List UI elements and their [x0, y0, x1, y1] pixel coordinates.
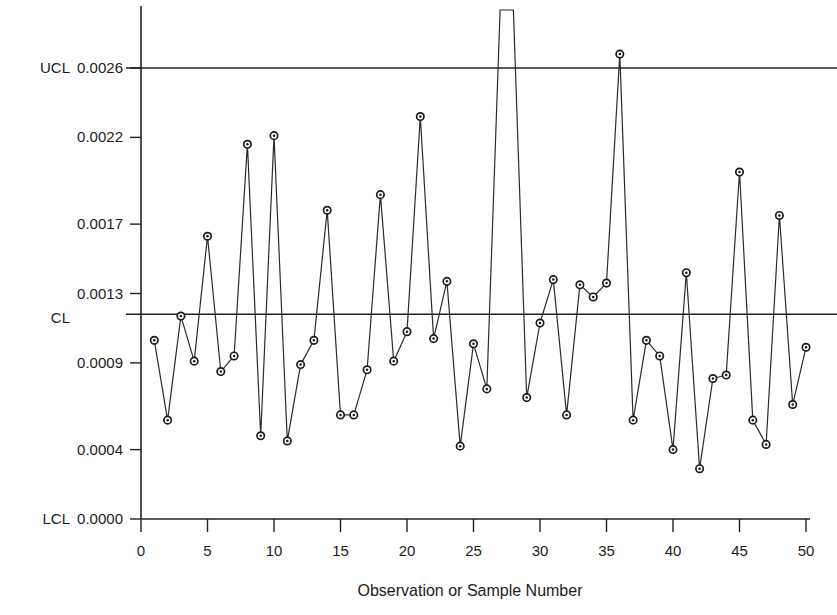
data-point-center [286, 440, 289, 443]
x-tick-label: 5 [203, 542, 211, 559]
y-tick-label: 0.0004 [77, 441, 123, 458]
data-point-center [805, 346, 808, 349]
x-tick-label: 10 [266, 542, 283, 559]
data-point-center [246, 143, 249, 146]
data-point-center [459, 445, 462, 448]
x-tick-label: 0 [137, 542, 145, 559]
data-point-center [619, 53, 622, 56]
data-point-center [206, 235, 209, 238]
x-tick-label: 50 [798, 542, 815, 559]
lcl-label: LCL [42, 510, 70, 527]
data-point-center [339, 414, 342, 417]
data-point-center [153, 339, 156, 342]
data-point-center [180, 315, 183, 318]
data-point-center [632, 419, 635, 422]
data-point-center [698, 467, 701, 470]
data-point-center [299, 363, 302, 366]
data-point-center [472, 343, 475, 346]
data-point-center [392, 360, 395, 363]
y-tick-label: 0.0026 [77, 59, 123, 76]
chart-background [0, 0, 837, 615]
data-point-center [605, 282, 608, 285]
y-tick-label: 0.0009 [77, 354, 123, 371]
x-tick-label: 45 [731, 542, 748, 559]
y-tick-label: 0.0013 [77, 285, 123, 302]
x-tick-label: 40 [665, 542, 682, 559]
data-point-center [552, 278, 555, 281]
data-point-center [539, 322, 542, 325]
data-point-center [220, 370, 223, 373]
data-point-center [273, 134, 276, 137]
data-point-center [259, 434, 262, 437]
ucl-label: UCL [40, 59, 70, 76]
data-point-center [353, 414, 356, 417]
data-point-center [565, 414, 568, 417]
data-point-center [486, 388, 489, 391]
y-tick-label: 0.0017 [77, 215, 123, 232]
cl-label: CL [51, 309, 70, 326]
x-tick-label: 15 [332, 542, 349, 559]
data-point-center [446, 280, 449, 283]
data-point-center [379, 193, 382, 196]
data-point-center [752, 419, 755, 422]
data-point-center [778, 214, 781, 217]
data-point-center [592, 296, 595, 299]
data-point-center [685, 271, 688, 274]
data-point-center [419, 115, 422, 118]
data-point-center [658, 355, 661, 358]
y-tick-label: 0.0022 [77, 128, 123, 145]
data-point-center [725, 374, 728, 377]
data-point-center [406, 330, 409, 333]
control-chart-figure: 0.00260.00220.00170.00130.00090.00040.00… [0, 0, 837, 615]
data-point-center [579, 284, 582, 287]
data-point-center [791, 403, 794, 406]
data-point-center [366, 369, 369, 372]
y-tick-label: 0.0000 [77, 510, 123, 527]
data-point-center [645, 339, 648, 342]
data-point-center [432, 337, 435, 340]
data-point-center [193, 360, 196, 363]
data-point-center [672, 448, 675, 451]
x-tick-label: 35 [598, 542, 615, 559]
x-tick-label: 20 [399, 542, 416, 559]
data-point-center [326, 209, 329, 212]
data-point-center [525, 396, 528, 399]
control-chart-page: 0.00260.00220.00170.00130.00090.00040.00… [0, 0, 837, 615]
data-point-center [166, 419, 169, 422]
x-axis-title: Observation or Sample Number [358, 582, 584, 599]
data-point-center [738, 171, 741, 174]
data-point-center [233, 355, 236, 358]
data-point-center [712, 377, 715, 380]
data-point-center [765, 443, 768, 446]
data-point-center [313, 339, 316, 342]
x-tick-label: 30 [532, 542, 549, 559]
y-axis-tick-labels: 0.00260.00220.00170.00130.00090.00040.00… [77, 59, 123, 527]
x-tick-label: 25 [465, 542, 482, 559]
